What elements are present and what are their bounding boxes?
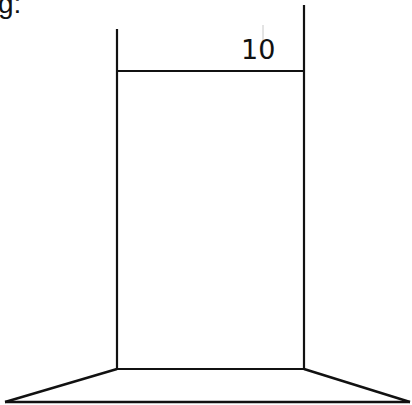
base-left-slant: [5, 369, 117, 402]
base-right-slant: [304, 369, 410, 402]
technical-drawing: 10: [0, 0, 412, 405]
dimension-label: 10: [241, 34, 275, 65]
